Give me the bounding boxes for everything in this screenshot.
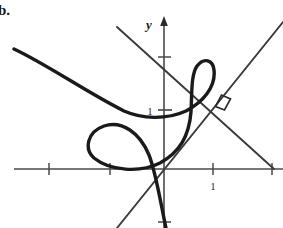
- x-tick-label-one: 1: [210, 180, 216, 192]
- curve-group: [14, 49, 214, 228]
- figure-container: b. y 1 1: [0, 0, 283, 228]
- tangent-line: [117, 27, 274, 169]
- lines-group: [117, 22, 283, 228]
- plot-curve: [14, 49, 214, 228]
- normal-line: [117, 22, 283, 228]
- axis-arrow-icon: [160, 16, 168, 26]
- y-axis-label: y: [144, 17, 152, 32]
- y-tick-label-one: 1: [147, 105, 153, 117]
- axes-group: y 1 1: [14, 16, 283, 228]
- figure-plot: y 1 1: [0, 0, 283, 228]
